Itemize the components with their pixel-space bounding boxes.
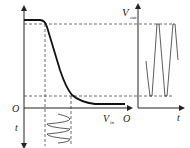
vin-subscript: in bbox=[110, 120, 114, 125]
dashed-guides bbox=[24, 24, 172, 146]
input-signal-wave bbox=[47, 114, 70, 143]
time-right-label: t bbox=[177, 112, 180, 123]
time-down-label: t bbox=[15, 122, 18, 133]
output-signal-wave bbox=[146, 24, 178, 96]
left-axes bbox=[24, 8, 130, 146]
origin-left-label: O bbox=[12, 103, 19, 114]
vout-subscript: out bbox=[130, 15, 137, 20]
vout-label: V bbox=[122, 6, 130, 18]
right-axes bbox=[138, 6, 182, 108]
transfer-diagram: O t V out V in O t bbox=[0, 0, 190, 148]
origin-right-label: O bbox=[123, 113, 130, 124]
transfer-curve bbox=[24, 20, 125, 104]
